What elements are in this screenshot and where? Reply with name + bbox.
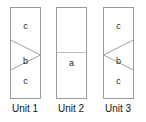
unit-3-top-region-label: c (103, 22, 134, 31)
geometry-diagram: c b c a c b c Unit 1 Unit 2 Unit 3 (0, 0, 146, 122)
unit-2-shape (56, 7, 87, 99)
unit-1-triangle-region-label: b (10, 57, 41, 66)
unit-2-caption: Unit 2 (48, 103, 94, 115)
unit-3-triangle-region-label: b (103, 57, 134, 66)
unit-1-figure: c b c (10, 7, 41, 99)
unit-2-figure: a (56, 7, 87, 99)
unit-2-outline (57, 8, 87, 99)
unit-3-caption: Unit 3 (95, 103, 141, 115)
unit-2-bottom-region-label: a (56, 59, 87, 68)
unit-1-top-region-label: c (10, 22, 41, 31)
unit-3-bottom-region-label: c (103, 77, 134, 86)
unit-1-caption: Unit 1 (2, 103, 48, 115)
unit-1-bottom-region-label: c (10, 77, 41, 86)
unit-3-figure: c b c (103, 7, 134, 99)
